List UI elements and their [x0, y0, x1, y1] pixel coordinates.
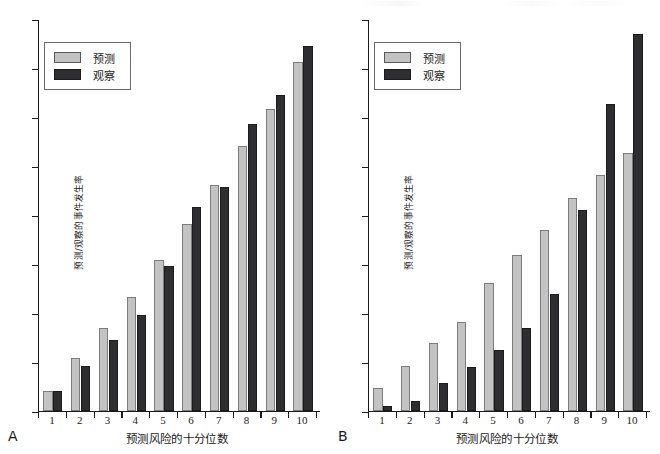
- bar-predicted: [210, 185, 219, 410]
- bar-group: [178, 20, 206, 411]
- x-tick-label: 3: [105, 414, 111, 427]
- bar-predicted: [623, 153, 632, 411]
- bar-group: [150, 20, 178, 411]
- x-tick-label: 1: [49, 414, 55, 427]
- legend-a: 预测 观察: [44, 42, 131, 90]
- y-axis-tick: [32, 216, 38, 217]
- bar-predicted: [127, 297, 136, 411]
- x-axis-line-a: [38, 411, 320, 412]
- x-axis-line-b: [368, 411, 650, 412]
- y-axis-tick: [362, 265, 368, 266]
- bar-predicted: [238, 146, 247, 411]
- legend-row-predicted-a: 预测: [54, 49, 116, 66]
- bar-predicted: [154, 260, 163, 411]
- bar-observed: [494, 350, 503, 410]
- x-tick-label: 8: [574, 414, 580, 427]
- x-tick-label: 1: [379, 414, 385, 427]
- panel-letter-b: B: [338, 428, 348, 444]
- bar-group: [206, 20, 234, 411]
- x-tick-label: 8: [244, 414, 250, 427]
- bar-group: [234, 20, 262, 411]
- y-axis-title-b: 预测/观察的事件发生率: [402, 122, 414, 322]
- x-tick-label: 6: [188, 414, 194, 427]
- bar-predicted: [596, 175, 605, 410]
- bar-group: [480, 20, 508, 411]
- y-axis-tick: [362, 314, 368, 315]
- y-axis-tick: [362, 20, 368, 21]
- bar-predicted: [429, 343, 438, 410]
- panel-a: 预测/观察的事件发生率 12345678910 预测风险的十分位数 A 预测 观…: [0, 0, 330, 454]
- bar-group: [536, 20, 564, 411]
- y-axis-tick: [32, 363, 38, 364]
- y-axis-tick: [32, 167, 38, 168]
- x-tick-label: 5: [160, 414, 166, 427]
- legend-b: 预测 观察: [374, 42, 461, 90]
- bar-predicted: [540, 230, 549, 411]
- bar-predicted: [457, 322, 466, 410]
- x-tick-label: 9: [602, 414, 608, 427]
- x-tick-labels-b: 12345678910: [368, 414, 646, 430]
- bar-observed: [192, 207, 201, 411]
- bar-predicted: [568, 198, 577, 411]
- figure-root: 预测/观察的事件发生率 12345678910 预测风险的十分位数 A 预测 观…: [0, 0, 660, 454]
- bar-predicted: [373, 388, 382, 410]
- y-axis-tick: [32, 20, 38, 21]
- x-axis-title-a: 预测风险的十分位数: [38, 430, 316, 446]
- legend-swatch-predicted-icon: [54, 52, 81, 63]
- bar-observed: [633, 34, 642, 411]
- legend-label-predicted: 预测: [423, 50, 446, 66]
- x-tick-label: 2: [77, 414, 83, 427]
- legend-label-observed: 观察: [423, 67, 446, 83]
- x-tick-label: 4: [133, 414, 139, 427]
- bar-observed: [248, 124, 257, 410]
- bar-predicted: [99, 328, 108, 410]
- bar-predicted: [266, 109, 275, 411]
- legend-label-observed: 观察: [93, 67, 116, 83]
- bar-group: [261, 20, 289, 411]
- bar-observed: [81, 366, 90, 411]
- scan-artifact: [360, 1, 648, 6]
- bar-observed: [164, 266, 173, 411]
- x-tick-label: 9: [272, 414, 278, 427]
- bar-observed: [467, 367, 476, 410]
- bar-group: [591, 20, 619, 411]
- panel-letter-a: A: [8, 428, 18, 444]
- legend-row-predicted-b: 预测: [384, 49, 446, 66]
- y-axis-title-a: 预测/观察的事件发生率: [72, 122, 84, 322]
- x-tick-label: 7: [546, 414, 552, 427]
- y-axis-tick: [362, 363, 368, 364]
- legend-label-predicted: 预测: [93, 50, 116, 66]
- y-axis-tick: [32, 69, 38, 70]
- y-axis-tick: [32, 118, 38, 119]
- y-axis-tick: [362, 69, 368, 70]
- x-tick-label: 4: [463, 414, 469, 427]
- x-tick-label: 10: [627, 414, 638, 427]
- bar-predicted: [512, 255, 521, 410]
- legend-swatch-observed-icon: [384, 69, 411, 80]
- y-axis-tick: [32, 265, 38, 266]
- bar-predicted: [293, 62, 302, 411]
- x-tick-labels-a: 12345678910: [38, 414, 316, 430]
- bar-predicted: [182, 224, 191, 410]
- bar-group: [619, 20, 647, 411]
- x-axis-tick: [646, 412, 647, 418]
- bar-predicted: [401, 366, 410, 411]
- bar-observed: [578, 210, 587, 410]
- bar-predicted: [484, 283, 493, 410]
- y-axis-tick: [32, 314, 38, 315]
- bar-group: [508, 20, 536, 411]
- x-tick-label: 5: [490, 414, 496, 427]
- panel-b: 预测/观察的事件发生率 12345678910 预测风险的十分位数 B 预测 观…: [330, 0, 660, 454]
- legend-row-observed-b: 观察: [384, 66, 446, 83]
- bar-predicted: [43, 391, 52, 411]
- x-axis-tick: [316, 412, 317, 418]
- x-tick-label: 3: [435, 414, 441, 427]
- bar-observed: [276, 95, 285, 411]
- bar-observed: [303, 46, 312, 411]
- legend-row-observed-a: 观察: [54, 66, 116, 83]
- x-tick-label: 6: [518, 414, 524, 427]
- x-tick-label: 7: [216, 414, 222, 427]
- legend-swatch-predicted-icon: [384, 52, 411, 63]
- bar-predicted: [71, 358, 80, 411]
- y-axis-tick: [362, 118, 368, 119]
